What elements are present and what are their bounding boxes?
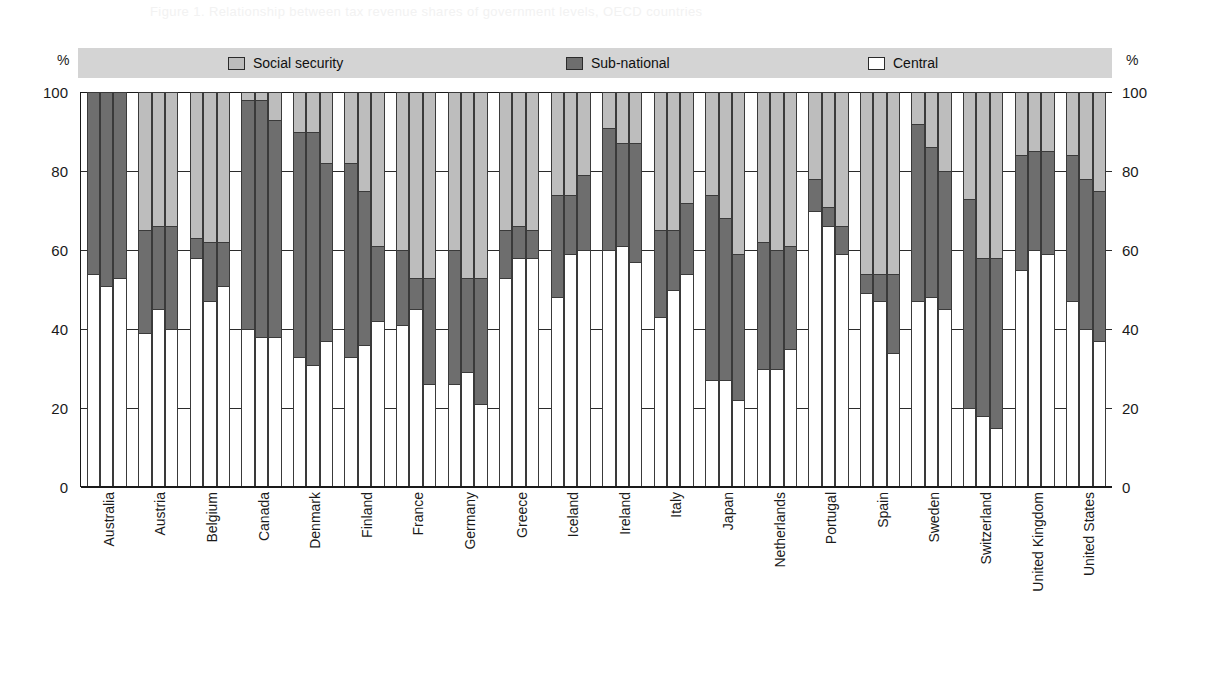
bar-segment-central xyxy=(911,301,924,487)
bar-segment-sub xyxy=(474,278,487,404)
bar-segment-social xyxy=(822,92,835,207)
bar-segment-central xyxy=(1015,270,1028,487)
bar-group-portugal xyxy=(803,92,855,487)
bar-segment-social xyxy=(474,92,487,278)
bar-greece-1 xyxy=(499,92,512,487)
bar-denmark-1 xyxy=(293,92,306,487)
x-axis-label-germany: Germany xyxy=(462,492,478,550)
bar-segment-social xyxy=(358,92,371,191)
bar-segment-social xyxy=(448,92,461,250)
bar-segment-sub xyxy=(551,195,564,298)
bar-italy-1 xyxy=(654,92,667,487)
bar-segment-social xyxy=(461,92,474,278)
bar-segment-central xyxy=(138,333,151,487)
y-tick-label-left-40: 40 xyxy=(28,321,68,338)
bar-segment-sub xyxy=(396,250,409,325)
bar-segment-social xyxy=(757,92,770,242)
bar-belgium-2 xyxy=(203,92,216,487)
bar-segment-central xyxy=(461,372,474,487)
bar-segment-social xyxy=(1066,92,1079,155)
bar-segment-sub xyxy=(976,258,989,416)
bar-spain-3 xyxy=(887,92,900,487)
bar-segment-sub xyxy=(268,120,281,337)
bar-segment-social xyxy=(255,92,268,100)
legend-label: Social security xyxy=(253,55,343,71)
bar-united-kingdom-3 xyxy=(1041,92,1054,487)
bar-iceland-2 xyxy=(564,92,577,487)
bar-segment-social xyxy=(732,92,745,254)
bar-segment-central xyxy=(822,226,835,487)
bar-france-1 xyxy=(396,92,409,487)
bar-segment-social xyxy=(667,92,680,230)
bar-japan-3 xyxy=(732,92,745,487)
x-axis-label-france: France xyxy=(410,492,426,536)
bar-segment-central xyxy=(873,301,886,487)
bar-segment-central xyxy=(396,325,409,487)
bar-segment-central xyxy=(87,274,100,487)
bar-segment-central xyxy=(1066,301,1079,487)
y-tick-label-left-60: 60 xyxy=(28,242,68,259)
bar-segment-sub xyxy=(499,230,512,277)
bar-segment-sub xyxy=(409,278,422,310)
bar-segment-central xyxy=(629,262,642,487)
bar-segment-social xyxy=(293,92,306,132)
bar-japan-1 xyxy=(705,92,718,487)
bar-segment-social xyxy=(860,92,873,274)
bar-segment-central xyxy=(784,349,797,487)
figure-root: Figure 1. Relationship between tax reven… xyxy=(0,0,1206,687)
bar-segment-social xyxy=(705,92,718,195)
bar-iceland-1 xyxy=(551,92,564,487)
bar-segment-sub xyxy=(217,242,230,285)
bar-segment-central xyxy=(165,329,178,487)
bar-austria-1 xyxy=(138,92,151,487)
bar-segment-central xyxy=(887,353,900,487)
chart-legend: Social securitySub-nationalCentral xyxy=(78,48,1112,78)
bar-segment-sub xyxy=(667,230,680,289)
bar-segment-central xyxy=(448,384,461,487)
bar-segment-social xyxy=(217,92,230,242)
bar-segment-social xyxy=(320,92,333,163)
legend-item-central: Central xyxy=(868,48,938,78)
bar-segment-central xyxy=(371,321,384,487)
bar-segment-central xyxy=(499,278,512,487)
bar-segment-central xyxy=(757,369,770,488)
bar-segment-social xyxy=(152,92,165,226)
bar-segment-central xyxy=(963,408,976,487)
bar-segment-social xyxy=(241,92,254,100)
bar-segment-central xyxy=(1041,254,1054,487)
bar-segment-sub xyxy=(203,242,216,301)
bar-segment-social xyxy=(1028,92,1041,151)
bar-netherlands-3 xyxy=(784,92,797,487)
legend-label: Sub-national xyxy=(591,55,670,71)
bar-segment-social xyxy=(512,92,525,226)
bar-segment-social xyxy=(138,92,151,230)
bar-segment-sub xyxy=(526,230,539,258)
bar-segment-sub xyxy=(190,238,203,258)
bar-segment-social xyxy=(371,92,384,246)
bar-segment-sub xyxy=(1028,151,1041,250)
x-axis-label-sweden: Sweden xyxy=(926,492,942,543)
bar-group-sweden xyxy=(906,92,958,487)
bar-united-kingdom-2 xyxy=(1028,92,1041,487)
bar-segment-central xyxy=(344,357,357,487)
bar-group-netherlands xyxy=(751,92,803,487)
bar-segment-social xyxy=(616,92,629,143)
bar-segment-sub xyxy=(100,92,113,286)
bar-segment-sub xyxy=(87,92,100,274)
bar-group-japan xyxy=(700,92,752,487)
bar-segment-social xyxy=(499,92,512,230)
bar-segment-social xyxy=(526,92,539,230)
bar-greece-3 xyxy=(526,92,539,487)
bar-segment-central xyxy=(602,250,615,487)
bar-austria-3 xyxy=(165,92,178,487)
x-axis-label-text: Ireland xyxy=(617,492,633,535)
bar-segment-social xyxy=(976,92,989,258)
bar-portugal-2 xyxy=(822,92,835,487)
bar-australia-1 xyxy=(87,92,100,487)
x-axis-line xyxy=(81,486,1112,488)
bar-segment-social xyxy=(564,92,577,195)
bar-segment-central xyxy=(526,258,539,487)
bar-segment-central xyxy=(203,301,216,487)
bar-segment-sub xyxy=(911,124,924,302)
bar-segment-sub xyxy=(564,195,577,254)
